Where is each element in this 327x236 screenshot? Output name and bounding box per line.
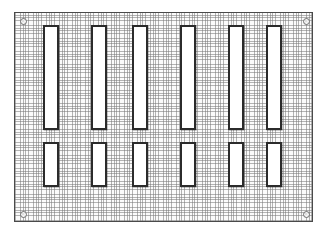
slot-r1-c3 <box>132 25 148 130</box>
slotted-plate <box>14 12 313 222</box>
slot-r1-c4 <box>180 25 196 130</box>
slot-r2-c4 <box>180 142 196 187</box>
corner-hole-bottom-right <box>303 211 310 218</box>
slot-r2-c6 <box>266 142 282 187</box>
slot-r2-c3 <box>132 142 148 187</box>
slot-r1-c5 <box>228 25 244 130</box>
slot-r1-c1 <box>43 25 59 130</box>
slot-r2-c1 <box>43 142 59 187</box>
slot-r2-c2 <box>91 142 107 187</box>
corner-hole-top-left <box>20 18 27 25</box>
drawing-canvas <box>0 0 327 236</box>
corner-hole-bottom-left <box>20 211 27 218</box>
slot-r1-c2 <box>91 25 107 130</box>
slot-r2-c5 <box>228 142 244 187</box>
slot-r1-c6 <box>266 25 282 130</box>
corner-hole-top-right <box>303 18 310 25</box>
